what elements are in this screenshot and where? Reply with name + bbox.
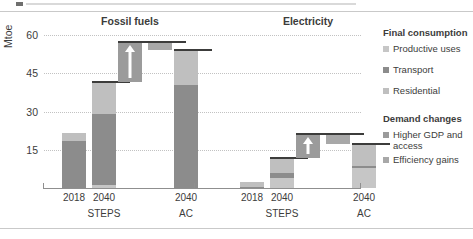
arrow-up-icon — [118, 45, 142, 78]
bar-floating[interactable] — [326, 134, 350, 144]
bar-segment — [352, 166, 376, 168]
bar-segment — [270, 178, 294, 188]
legend-swatch-residential — [383, 88, 389, 94]
legend-item-residential[interactable]: Residential — [383, 85, 473, 96]
gridline — [44, 73, 361, 74]
x-tick-fossil-2040-ac: 2040 — [169, 192, 203, 203]
x-axis-tick — [43, 183, 44, 189]
bar-segment — [92, 82, 116, 114]
bar-segment — [174, 85, 198, 188]
cropped-legend-fragment-line — [26, 3, 356, 5]
bar-stacked[interactable] — [270, 158, 294, 188]
x-tick-fossil-2040-steps: 2040 — [87, 192, 121, 203]
legend-swatch-productive-uses — [383, 46, 389, 52]
legend-label-higher-gdp: Higher GDP and access — [393, 129, 473, 151]
arrow-up-icon — [296, 137, 320, 153]
x-tick-electricity-2040-ac: 2040 — [347, 192, 381, 203]
x-axis-line — [44, 188, 361, 189]
legend-group-title-final-consumption: Final consumption — [383, 27, 473, 38]
plot-area — [44, 30, 361, 188]
x-group-electricity-ac: AC — [347, 208, 381, 219]
chart-root: Mtoe Fossil fuels Electricity Final cons… — [0, 0, 473, 239]
x-axis-tick — [194, 183, 195, 189]
legend-item-efficiency-gains[interactable]: Efficiency gains — [383, 154, 473, 165]
cropped-legend-fragment-icon — [16, 2, 23, 6]
x-tick-electricity-2040-steps: 2040 — [265, 192, 299, 203]
x-group-fossil-steps: STEPS — [87, 208, 121, 219]
bar-cap-line — [326, 133, 364, 135]
legend-swatch-transport — [383, 67, 389, 73]
bar-cap-line — [148, 41, 186, 43]
legend-swatch-higher-gdp — [383, 132, 389, 138]
x-tick-electricity-2018: 2018 — [235, 192, 269, 203]
legend-item-transport[interactable]: Transport — [383, 64, 473, 75]
y-axis-tick-label: 45 — [8, 67, 38, 79]
bar-cap-line — [174, 49, 212, 51]
x-axis-tick — [360, 183, 361, 189]
bar-segment — [174, 50, 198, 85]
bar-segment — [352, 144, 376, 166]
legend-label-productive-uses: Productive uses — [393, 43, 461, 54]
bar-floating[interactable] — [296, 134, 320, 157]
x-tick-fossil-2018: 2018 — [57, 192, 91, 203]
y-axis-tick-label: 30 — [8, 106, 38, 118]
divider-top — [0, 11, 473, 12]
panel-title-electricity: Electricity — [240, 15, 376, 27]
x-group-electricity-steps: STEPS — [265, 208, 299, 219]
legend-item-productive-uses[interactable]: Productive uses — [383, 43, 473, 54]
legend-group-title-demand-changes: Demand changes — [383, 113, 473, 124]
bar-floating[interactable] — [148, 42, 172, 50]
legend-item-higher-gdp-and-access[interactable]: Higher GDP and access — [383, 129, 473, 151]
bar-segment — [240, 182, 264, 187]
bar-segment — [92, 114, 116, 186]
legend-label-transport: Transport — [393, 64, 433, 75]
x-group-fossil-ac: AC — [169, 208, 203, 219]
bar-stacked[interactable] — [174, 50, 198, 188]
bar-stacked[interactable] — [62, 133, 86, 188]
bar-segment — [270, 173, 294, 177]
legend-label-efficiency-gains: Efficiency gains — [393, 154, 459, 165]
bar-segment — [62, 133, 86, 142]
panel-title-fossil: Fossil fuels — [62, 15, 198, 27]
bar-floating[interactable] — [118, 42, 142, 82]
bar-segment — [352, 168, 376, 188]
y-axis-tick-label: 60 — [8, 29, 38, 41]
gridline — [44, 35, 361, 36]
bar-segment — [62, 141, 86, 188]
bar-stacked[interactable] — [92, 82, 116, 188]
divider-bottom — [0, 228, 473, 229]
bar-segment — [270, 158, 294, 174]
chart-legend: Final consumption Productive uses Transp… — [383, 27, 473, 165]
legend-swatch-efficiency-gains — [383, 157, 389, 163]
legend-label-residential: Residential — [393, 85, 440, 96]
bar-stacked[interactable] — [352, 144, 376, 188]
y-axis-tick-label: 15 — [8, 144, 38, 156]
